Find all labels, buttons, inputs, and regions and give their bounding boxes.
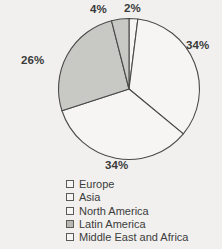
data-label-asia: 34% bbox=[105, 160, 128, 172]
legend-item-label: Latin America bbox=[79, 218, 146, 230]
data-label-north-america: 26% bbox=[21, 55, 44, 67]
legend-swatch-icon bbox=[66, 220, 74, 228]
legend-item-label: Middle East and Africa bbox=[79, 231, 188, 243]
legend-item-asia[interactable]: Asia bbox=[66, 191, 218, 204]
legend-swatch-icon bbox=[66, 207, 74, 215]
legend-swatch-icon bbox=[66, 233, 74, 241]
pie-chart-canvas bbox=[0, 0, 222, 180]
legend-item-label: Asia bbox=[79, 191, 100, 203]
legend-item-middle-east-and-africa[interactable]: Middle East and Africa bbox=[66, 231, 218, 244]
data-label-europe: 34% bbox=[186, 40, 209, 52]
legend-swatch-icon bbox=[66, 180, 74, 188]
legend-item-europe[interactable]: Europe bbox=[66, 178, 218, 191]
legend-item-label: Europe bbox=[79, 178, 114, 190]
pie-chart-figure: 2% 4% 34% 26% 34% EuropeAsiaNorth Americ… bbox=[0, 0, 222, 249]
legend-item-latin-america[interactable]: Latin America bbox=[66, 218, 218, 231]
data-label-latin-america: 4% bbox=[90, 4, 107, 16]
legend-item-north-america[interactable]: North America bbox=[66, 204, 218, 217]
pie-slice-group bbox=[58, 18, 199, 159]
legend-item-label: North America bbox=[79, 205, 149, 217]
data-label-middle-east-and-africa: 2% bbox=[124, 3, 141, 15]
legend-swatch-icon bbox=[66, 193, 74, 201]
chart-legend: EuropeAsiaNorth AmericaLatin AmericaMidd… bbox=[66, 178, 218, 244]
